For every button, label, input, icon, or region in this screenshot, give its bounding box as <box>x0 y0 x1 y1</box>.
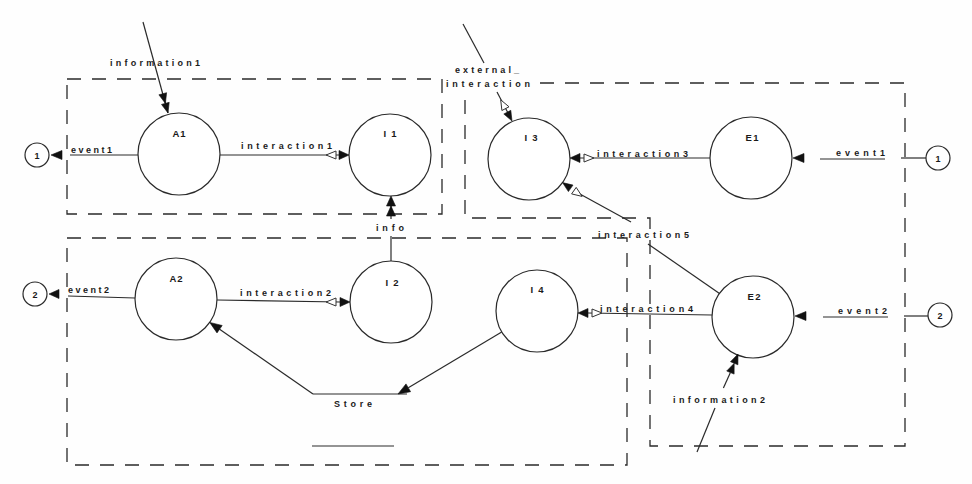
store-label: Store <box>334 399 372 409</box>
arrowhead-filled-icon <box>398 384 411 394</box>
store-to-a2-line <box>220 329 313 394</box>
arrowhead-filled-icon <box>387 206 396 216</box>
node-i3 <box>488 118 570 200</box>
arrowhead-open-icon <box>501 100 509 111</box>
external-interaction-label-line1: external_ <box>455 65 520 75</box>
interaction2-line <box>217 300 340 302</box>
interaction4-label: interaction4 <box>600 304 693 314</box>
node-i1-label: I1 <box>384 128 398 139</box>
arrowhead-open-icon <box>326 298 336 306</box>
node-i4-label: I4 <box>531 284 545 295</box>
arrowhead-filled-icon <box>793 154 804 163</box>
arrowhead-filled-icon <box>162 102 170 113</box>
arrowhead-open-icon <box>326 151 336 159</box>
event2-left-label: event2 <box>68 285 109 295</box>
node-e2 <box>712 276 794 358</box>
connector-right-1-label: 1 <box>935 154 940 164</box>
arrowhead-filled-icon <box>159 93 167 104</box>
arrowhead-filled-icon <box>504 110 512 121</box>
node-e1-label: E1 <box>746 132 760 143</box>
information2-line <box>723 373 730 389</box>
arrowhead-filled-icon <box>727 363 735 374</box>
node-i2 <box>350 261 432 343</box>
arrowhead-open-icon <box>572 187 583 196</box>
interaction5-line <box>574 191 631 222</box>
interaction5-label: interaction5 <box>598 230 689 240</box>
data-flow-diagram: information1 external_ interaction A1 I1… <box>0 0 972 484</box>
arrowhead-filled-icon <box>563 183 574 192</box>
node-e1 <box>710 117 792 199</box>
connector-left-2-label: 2 <box>32 290 37 300</box>
arrowhead-filled-icon <box>340 298 350 307</box>
node-i4 <box>496 270 578 352</box>
node-a1-label: A1 <box>173 128 187 139</box>
arrowhead-filled-icon <box>795 312 806 321</box>
arrowhead-filled-icon <box>570 154 580 163</box>
arrowhead-filled-icon <box>339 151 349 160</box>
node-a2-label: A2 <box>170 273 183 284</box>
node-a2 <box>135 258 217 340</box>
node-a1 <box>138 113 220 195</box>
connector-left-1-label: 1 <box>34 151 39 161</box>
arrowhead-filled-icon <box>51 151 62 160</box>
connector-right-2-label: 2 <box>937 311 942 321</box>
arrowhead-filled-icon <box>578 309 588 318</box>
information2-label: information2 <box>673 395 765 405</box>
node-i1 <box>349 114 431 196</box>
interaction5-line <box>648 244 720 293</box>
external-interaction-line <box>463 24 484 63</box>
interaction1-label: interaction1 <box>241 141 332 151</box>
arrowhead-open-icon <box>584 154 594 162</box>
i4-to-store-line <box>408 332 501 388</box>
arrowhead-filled-icon <box>49 290 59 299</box>
info-label: info <box>376 223 405 233</box>
arrowhead-filled-icon <box>210 322 223 333</box>
event1-left-label: event1 <box>71 145 112 155</box>
interaction2-label: interaction2 <box>240 288 331 298</box>
event1-right-label: event1 <box>836 148 885 158</box>
arrowhead-filled-icon <box>387 196 396 206</box>
event2-left-line <box>68 296 135 298</box>
event2-right-label: event2 <box>838 306 887 316</box>
